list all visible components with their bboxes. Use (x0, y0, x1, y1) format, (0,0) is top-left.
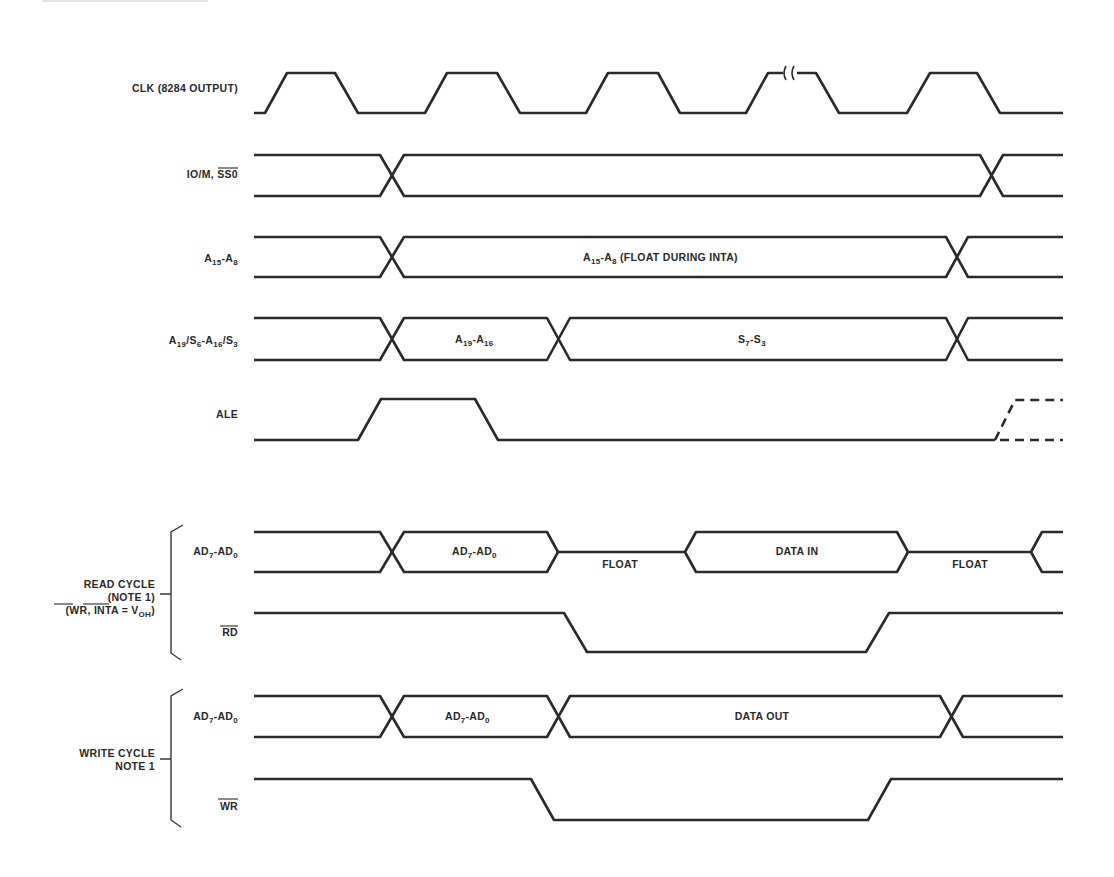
a19-s6-lower (254, 318, 1063, 360)
a15-a8-segment-label: A15-A8 (FLOAT DURING INTA) (583, 251, 738, 266)
ss0-overbar-text: SS0 (217, 168, 238, 180)
read-cycle-label-line1: READ CYCLE (84, 578, 155, 590)
clk-waveform-cont (797, 73, 1063, 113)
read-float-label-2: FLOAT (952, 558, 988, 570)
clk-waveform (254, 73, 783, 113)
timing-diagram: CLK (8284 OUTPUT) IO/M, SS0 A15-A8 A15-A… (0, 0, 1114, 877)
clk-label: CLK (8284 OUTPUT) (132, 82, 238, 94)
write-cycle-brace (160, 689, 183, 827)
read-ad-tail-lower (1031, 552, 1063, 572)
a19-a16-segment-label: A19-A16 (455, 333, 494, 348)
read-cycle-label-line3: (WR, INTA = VOH) (66, 604, 155, 619)
write-ad-upper (254, 696, 1063, 737)
read-ad-label: AD7-AD0 (193, 545, 238, 560)
read-float-label-1: FLOAT (602, 558, 638, 570)
read-data-in-label: DATA IN (776, 545, 819, 557)
rd-waveform (254, 613, 1063, 652)
io-m-upper (254, 155, 1063, 196)
io-m-label: IO/M, SS0 (187, 168, 238, 180)
ale-waveform (254, 399, 995, 440)
a19-s6-label: A19/S6-A16/S3 (169, 334, 238, 349)
write-data-out-label: DATA OUT (735, 710, 790, 722)
read-ad-segment-label: AD7-AD0 (452, 545, 497, 560)
a15-a8-label: A15-A8 (204, 252, 238, 267)
a19-s6-upper (254, 318, 1063, 360)
io-m-lower (254, 155, 1063, 196)
clk-break-mark (784, 66, 794, 80)
write-cycle-label-line1: WRITE CYCLE (79, 747, 155, 759)
write-cycle-label-line2: NOTE 1 (115, 760, 155, 772)
write-ad-label: AD7-AD0 (193, 710, 238, 725)
rd-label: RD (222, 626, 238, 638)
read-cycle-brace (160, 525, 183, 660)
read-ad-lower (254, 532, 558, 572)
read-ad-upper (254, 532, 1063, 572)
ale-dashed-rise (995, 400, 1063, 440)
wr-label: WR (220, 800, 238, 812)
write-ad-segment-label: AD7-AD0 (445, 710, 490, 725)
write-ad-lower (254, 696, 1063, 737)
ale-label: ALE (216, 408, 238, 420)
wr-waveform (254, 779, 1063, 820)
s7-s3-segment-label: S7-S3 (738, 333, 766, 348)
read-cycle-label-line2: (NOTE 1) (108, 591, 155, 603)
